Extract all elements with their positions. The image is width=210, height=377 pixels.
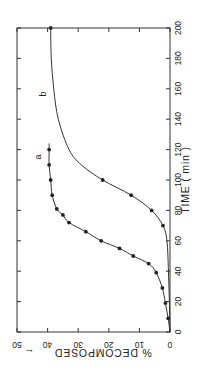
curve-b: [51, 28, 170, 332]
curve-a-marker: [47, 148, 51, 152]
x-tick-label: 40: [173, 266, 183, 276]
curve-b-marker: [161, 224, 165, 228]
x-tick-label: 160: [173, 81, 183, 95]
curve-a-marker: [67, 221, 71, 225]
x-tick-label: 140: [173, 112, 183, 126]
curve-a-marker: [154, 271, 158, 275]
curve-a-label: a: [33, 154, 43, 159]
plot-frame: [17, 28, 170, 332]
x-tick-label: 0: [173, 329, 183, 334]
y-tick-label: 40: [43, 340, 53, 350]
curve-a-marker: [131, 254, 135, 258]
curve-a-marker: [55, 207, 59, 211]
curve-b-label: b: [38, 91, 48, 96]
y-tick-label: 0: [167, 340, 172, 350]
y-axis-arrow: ←: [24, 347, 35, 359]
y-tick-label: 50: [12, 340, 22, 350]
axes: [17, 28, 170, 332]
x-tick-label: 60: [173, 236, 183, 246]
decomposition-chart: 02040608010012014016018020001020304050 T…: [0, 0, 210, 377]
x-tick-label: 200: [173, 21, 183, 35]
curve-a-marker: [99, 239, 103, 243]
y-axis-title: % DECOMPOSED: [54, 347, 152, 359]
x-tick-label: 20: [173, 297, 183, 307]
tick-labels: 02040608010012014016018020001020304050: [12, 21, 183, 350]
curve-a-marker: [47, 163, 51, 167]
curve-a-marker: [147, 262, 151, 266]
plot-area: [47, 26, 170, 332]
curve-a-marker: [50, 193, 54, 197]
y-axis-title-group: % DECOMPOSED ←: [24, 347, 152, 359]
curve-a-marker: [61, 213, 65, 217]
x-tick-label: 180: [173, 51, 183, 65]
x-axis-title: TIME ( min ): [179, 146, 191, 213]
curve-b-marker: [129, 193, 133, 197]
curve-a-marker: [118, 247, 122, 251]
curve-a: [49, 144, 170, 332]
curve-b-marker: [150, 209, 154, 213]
curve-b-marker: [101, 178, 105, 182]
curve-a-marker: [49, 178, 53, 182]
curve-a-marker: [84, 230, 88, 234]
curve-a-marker: [160, 286, 164, 290]
